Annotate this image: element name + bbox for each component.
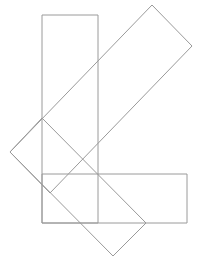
geometric-diagram [0, 0, 212, 258]
